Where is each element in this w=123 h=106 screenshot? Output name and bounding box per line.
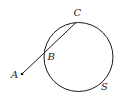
secant-line-ac <box>22 23 76 75</box>
geometry-diagram: A B C S <box>0 0 123 106</box>
label-b: B <box>47 51 55 62</box>
label-a: A <box>10 69 18 80</box>
point-a-dot <box>21 73 24 76</box>
label-s: S <box>101 81 108 92</box>
label-c: C <box>74 7 82 18</box>
